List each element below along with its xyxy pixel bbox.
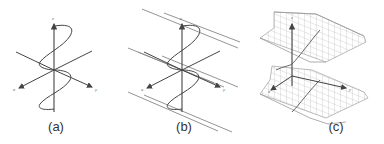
panel-b: z x y (b): [128, 0, 256, 144]
caption-a: (a): [36, 119, 76, 134]
y-axis: [182, 70, 220, 87]
caption-c: (c): [316, 119, 356, 134]
panel-c: z x y (c): [256, 0, 384, 144]
y-axis-label: y: [94, 87, 98, 92]
x-axis-label: x: [140, 87, 144, 92]
x-axis: [19, 70, 54, 88]
upper-mesh-sheet: [260, 12, 366, 62]
panel-a: z x y (a): [0, 0, 128, 144]
y-axis: [54, 70, 92, 87]
helix-curve: [167, 25, 200, 109]
z-axis-label: z: [290, 15, 293, 20]
caption-b: (b): [164, 119, 204, 134]
z-axis-label: z: [51, 16, 54, 21]
lower-mesh-sheet: [260, 66, 368, 124]
y-axis-label: y: [222, 87, 226, 92]
z-axis-label: z: [179, 16, 182, 21]
x-axis: [147, 70, 182, 88]
helix-curve: [39, 25, 72, 109]
x-axis-label: x: [12, 87, 16, 92]
